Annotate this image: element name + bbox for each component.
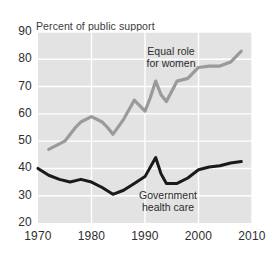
plot-area [0,0,272,256]
x-tick-label: 2000 [177,229,221,243]
y-tick-label: 80 [6,51,32,65]
y-tick-label: 20 [6,215,32,229]
series-label-equal-role: Equal role for women [136,46,206,69]
y-tick-label: 60 [6,106,32,120]
y-tick-label: 30 [6,188,32,202]
y-tick-label: 50 [6,133,32,147]
series-label-government-health-care: Government health care [130,190,206,213]
x-tick-label: 1990 [123,229,167,243]
chart-container: Percent of public support 20304050607080… [0,0,272,256]
y-tick-label: 70 [6,79,32,93]
y-tick-label: 40 [6,160,32,174]
x-tick-label: 1970 [16,229,60,243]
x-tick-label: 1980 [70,229,114,243]
x-tick-label: 2010 [230,229,272,243]
y-tick-label: 90 [6,24,32,38]
